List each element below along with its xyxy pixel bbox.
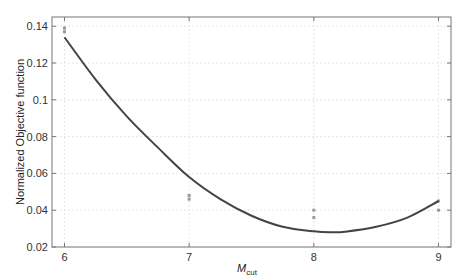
- data-point: [312, 216, 315, 219]
- data-point: [63, 30, 66, 33]
- x-axis-ticks: 6789: [61, 17, 441, 263]
- y-tick-label: 0.1: [33, 94, 48, 106]
- x-axis-label-subscript: cut: [246, 268, 257, 277]
- y-tick-label: 0.02: [27, 241, 48, 253]
- x-axis-label: Mcut: [237, 262, 258, 277]
- data-points: [63, 27, 440, 220]
- y-tick-label: 0.04: [27, 204, 48, 216]
- data-point: [437, 209, 440, 212]
- data-point: [188, 198, 191, 201]
- plot-area: [52, 17, 451, 247]
- grid-lines: [52, 17, 451, 247]
- y-tick-label: 0.14: [27, 20, 48, 32]
- chart: 6789 0.020.040.060.080.10.120.14 Mcut No…: [0, 0, 470, 280]
- y-tick-label: 0.12: [27, 57, 48, 69]
- fit-curve: [64, 37, 438, 232]
- x-tick-label: 9: [435, 251, 441, 263]
- data-point: [188, 194, 191, 197]
- x-tick-label: 6: [61, 251, 67, 263]
- x-tick-label: 7: [186, 251, 192, 263]
- y-tick-label: 0.08: [27, 131, 48, 143]
- y-tick-label: 0.06: [27, 167, 48, 179]
- y-axis-label: Normalized Objective function: [14, 59, 26, 205]
- y-axis-ticks: 0.020.040.060.080.10.120.14: [27, 20, 451, 253]
- data-point: [312, 209, 315, 212]
- data-point: [63, 27, 66, 30]
- x-tick-label: 8: [311, 251, 317, 263]
